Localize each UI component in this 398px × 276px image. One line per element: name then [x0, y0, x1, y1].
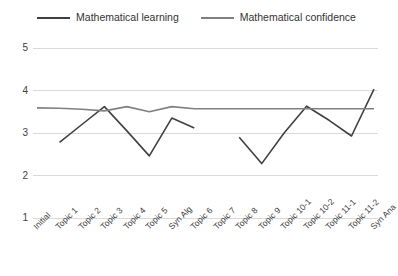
- series-group: [37, 89, 374, 163]
- y-tick-label: 5: [12, 43, 28, 53]
- y-tick-label: 1: [12, 213, 28, 223]
- y-tick-label: 2: [12, 171, 28, 181]
- y-tick-label: 3: [12, 128, 28, 138]
- y-tick-label: 4: [12, 86, 28, 96]
- gridlines: [33, 48, 378, 218]
- series-line-confidence: [37, 107, 374, 112]
- series-line-learning: [239, 89, 374, 163]
- series-line-learning: [60, 107, 195, 156]
